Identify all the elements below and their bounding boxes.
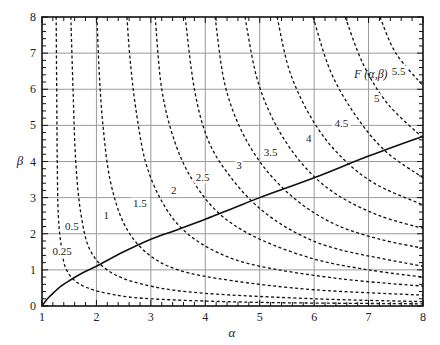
contour-label: 3 [236,159,242,171]
contour-line-4 [277,17,423,205]
y-tick-label: 8 [30,10,36,24]
contour-label: 1 [103,209,109,221]
contour-chart: 0.250.511.522.533.544.555.51234567801234… [0,0,440,345]
contour-label: 5.5 [392,65,406,77]
function-annotation: F (α,β) [353,67,388,81]
x-tick-label: 8 [420,310,426,324]
x-tick-label: 4 [202,310,208,324]
y-tick-label: 1 [30,263,36,277]
y-tick-label: 0 [30,299,36,313]
x-axis-label: α [229,325,237,340]
contour-line-4_5 [313,17,423,178]
x-tick-label: 2 [93,310,99,324]
y-tick-label: 4 [30,155,36,169]
contour-label: 0.5 [65,220,79,232]
contour-line-0_5 [71,17,423,302]
y-tick-label: 7 [30,46,36,60]
x-tick-label: 7 [366,310,372,324]
x-tick-label: 1 [39,310,45,324]
contour-label: 0.25 [53,245,73,257]
contour-label: 3.5 [264,146,278,158]
x-tick-label: 6 [311,310,317,324]
y-tick-label: 3 [30,191,36,205]
contour-label: 4.5 [334,117,348,129]
y-tick-label: 6 [30,82,36,96]
y-tick-label: 2 [30,227,36,241]
contour-label: 2.5 [196,171,210,183]
contour-label: 4 [306,132,312,144]
x-tick-label: 5 [257,310,263,324]
contour-line-2_5 [185,17,423,266]
contour-label: 5 [374,92,380,104]
contour-label: 1.5 [133,197,147,209]
contour-line-3 [215,17,423,248]
contour-label: 2 [171,184,177,196]
y-tick-label: 5 [30,118,36,132]
labels: 0.250.511.522.533.544.555.51234567801234… [30,10,426,324]
y-axis-label: β [16,153,24,168]
x-tick-label: 3 [148,310,154,324]
